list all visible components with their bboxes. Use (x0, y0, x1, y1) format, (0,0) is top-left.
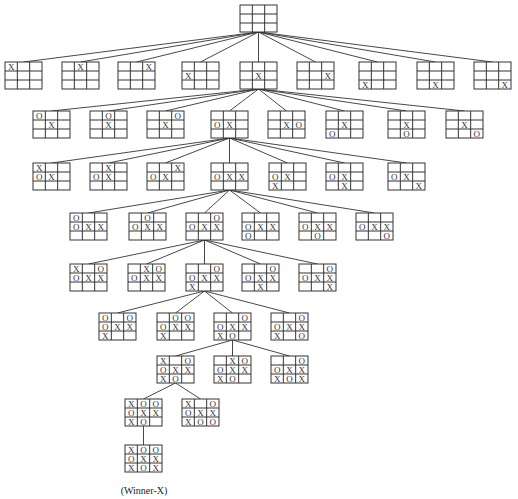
x-mark: X (242, 322, 249, 332)
o-mark: O (229, 374, 236, 384)
x-mark: X (403, 172, 410, 182)
board: X (474, 62, 511, 90)
o-mark: O (245, 273, 252, 283)
x-mark: X (85, 273, 92, 283)
o-mark: O (36, 172, 43, 182)
tree-edge (144, 383, 176, 399)
x-mark: X (274, 331, 281, 341)
tree-edge (230, 190, 261, 213)
x-mark: X (274, 374, 281, 384)
o-mark: O (73, 222, 80, 232)
x-mark: X (226, 172, 233, 182)
x-mark: X (217, 331, 224, 341)
board: OOXXX (299, 264, 336, 292)
board: XOX (147, 163, 184, 190)
board: X (240, 62, 277, 89)
tree-edge (205, 240, 318, 264)
board: OOOXXX (157, 313, 194, 341)
x-mark: X (175, 163, 182, 173)
board: XOOXXXO (214, 356, 251, 384)
x-mark: X (502, 80, 509, 90)
o-mark: O (197, 417, 204, 427)
board: OXXO (242, 213, 279, 241)
board: OOXX (129, 213, 166, 240)
tree-edge (24, 32, 259, 62)
x-mark: X (172, 322, 179, 332)
x-mark: X (416, 181, 423, 191)
o-mark: O (36, 111, 43, 121)
x-mark: X (48, 120, 55, 130)
game-tree-diagram: XXXXXXXXXOXOXOXOXXOXOXOXOXOXXOXXOXOXXOXX… (0, 0, 518, 499)
x-mark: X (185, 417, 192, 427)
tree-edge (109, 138, 230, 163)
x-mark: X (257, 222, 264, 232)
o-mark: O (140, 463, 147, 473)
board: OXX (388, 163, 425, 191)
tree-edge (176, 340, 233, 356)
o-mark: O (214, 172, 221, 182)
x-mark: X (105, 120, 112, 130)
o-mark: O (214, 120, 221, 130)
o-mark: O (474, 129, 481, 139)
x-mark: X (160, 374, 167, 384)
x-mark: X (217, 374, 224, 384)
x-mark: X (341, 181, 348, 191)
x-mark: X (85, 222, 92, 232)
board: OOXX (186, 213, 223, 240)
board: XOOOXXXOX (125, 445, 162, 473)
board: OXXO (356, 213, 393, 241)
x-mark: X (48, 172, 55, 182)
o-mark: O (245, 231, 252, 241)
board-frame (240, 5, 277, 32)
x-mark: X (341, 120, 348, 130)
o-mark: O (140, 417, 147, 427)
tree-edge (230, 138, 345, 163)
x-mark: X (128, 417, 135, 427)
board: OXX (211, 163, 248, 190)
x-mark: X (114, 322, 121, 332)
board: OOXXXO (214, 313, 251, 341)
o-mark: O (391, 172, 398, 182)
x-mark: X (128, 463, 135, 473)
board: X (297, 62, 334, 89)
board: OX (33, 111, 70, 138)
board: OOXXX (186, 264, 223, 292)
o-mark: O (229, 331, 236, 341)
tree-edge (109, 89, 259, 111)
tree-edge (230, 190, 375, 213)
board: OOXXX (242, 264, 279, 292)
x-mark: X (325, 71, 332, 81)
board: OOOXXX (99, 313, 136, 341)
x-mark: X (160, 331, 167, 341)
tree-edge (205, 240, 261, 264)
tree-edge (259, 32, 378, 62)
o-mark: O (296, 120, 303, 130)
x-mark: X (327, 282, 334, 292)
x-mark: X (272, 181, 279, 191)
board: XO (388, 111, 425, 139)
x-mark: X (327, 222, 334, 232)
board: OXX (326, 163, 363, 191)
x-mark: X (214, 273, 221, 283)
x-mark: X (146, 62, 153, 72)
x-mark: X (143, 273, 150, 283)
board: XOOXXXOO (182, 399, 219, 427)
x-mark: X (362, 80, 369, 90)
winner-caption: (Winner-X) (121, 485, 168, 497)
board: XO (446, 111, 483, 139)
x-mark: X (8, 62, 15, 72)
o-mark: O (132, 222, 139, 232)
tree-edge (205, 291, 290, 313)
x-mark: X (157, 222, 164, 232)
tree-boards: XXXXXXXXXOXOXOXOXXOXOXOXOXOXXOXXOXOXXOXX… (5, 5, 511, 473)
o-mark: O (384, 231, 391, 241)
board: XOOOXXXO (125, 399, 162, 427)
tree-edge (137, 32, 259, 62)
o-mark: O (210, 417, 217, 427)
board: OX (211, 111, 248, 138)
x-mark: X (144, 222, 151, 232)
o-mark: O (172, 374, 179, 384)
o-mark: O (175, 111, 182, 121)
tree-edge (81, 32, 259, 62)
board: XOX (33, 163, 70, 190)
